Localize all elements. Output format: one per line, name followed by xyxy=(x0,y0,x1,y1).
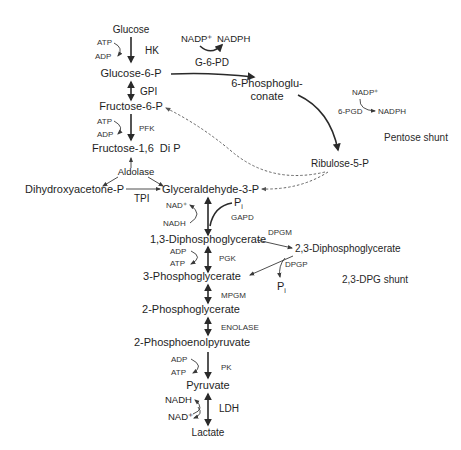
cofactor-pfk-adp: ADP xyxy=(97,130,113,139)
cofactor-arrow-ldh-down xyxy=(194,407,200,418)
cofactor-pk-atp: ATP xyxy=(171,368,186,377)
metabolite-pi-gapd: Pi xyxy=(234,196,243,210)
arrow-6pg-to-ribulose xyxy=(298,95,338,150)
cofactor-arrow-gapd xyxy=(190,205,197,223)
enzyme-pfk: PFK xyxy=(139,124,155,133)
enzyme-ldh: LDH xyxy=(219,403,239,414)
enzyme-tpi: TPI xyxy=(134,193,150,204)
dashed-arrow-ribulose-to-g3p xyxy=(262,172,328,189)
metabolite-glyceraldehyde-3-p: Glyceraldehyde-3-P xyxy=(162,183,259,195)
metabolite-glucose: Glucose xyxy=(113,24,150,35)
enzyme-hk: HK xyxy=(145,45,159,56)
metabolite-1-3-diphosphoglycerate: 1,3-Diphosphoglycerate xyxy=(150,233,266,245)
cofactor-arrow-ldh-up xyxy=(193,400,200,414)
cofactor-arrow-pgk xyxy=(191,251,198,264)
metabolite-pi-dpgp: Pi xyxy=(277,280,286,294)
enzyme-mpgm: MPGM xyxy=(221,291,246,300)
metabolite-3-phosphoglycerate: 3-Phosphoglycerate xyxy=(143,270,241,282)
metabolite-6-phosphogluconate-line2: conate xyxy=(250,90,283,102)
enzyme-gapd: GAPD xyxy=(231,213,254,222)
cofactor-gapd-nad: NAD⁺ xyxy=(166,201,187,210)
cofactor-pgk-adp: ADP xyxy=(170,247,186,256)
metabolite-fructose-1-6-diphosphate: Fructose-1,6 Di P xyxy=(92,142,181,154)
enzyme-gpi: GPI xyxy=(140,86,157,97)
metabolite-2-3-diphosphoglycerate: 2,3-Diphosphoglycerate xyxy=(295,243,401,254)
cofactor-ldh-nadh: NADH xyxy=(165,394,192,405)
cofactor-6pgd-label-enzyme: 6-PGD xyxy=(338,107,363,116)
cofactor-6pgd-nadph: NADPH xyxy=(378,107,406,116)
cofactor-pgk-atp: ATP xyxy=(170,259,185,268)
enzyme-g6pd: G-6-PD xyxy=(195,57,229,68)
metabolite-6-phosphogluconate-line1: 6-Phosphoglu- xyxy=(231,77,303,89)
metabolite-lactate: Lactate xyxy=(192,427,225,438)
cofactor-arrow-hk xyxy=(114,43,120,56)
cofactor-arrow-pfk xyxy=(114,121,121,134)
enzyme-aldolase: Aldolase xyxy=(118,166,154,177)
label-2-3-dpg-shunt: 2,3-DPG shunt xyxy=(342,274,408,285)
cofactor-gapd-nadh: NADH xyxy=(163,219,186,228)
cofactor-pk-adp: ADP xyxy=(171,355,187,364)
enzyme-pgk: PGK xyxy=(219,254,237,263)
dashed-arrow-ribulose-to-f6p xyxy=(166,108,325,176)
cofactor-arrow-pk xyxy=(191,359,199,373)
cofactor-g6pd-nadp: NADP⁺ xyxy=(181,33,212,44)
cofactor-g6pd-nadph: NADPH xyxy=(217,33,250,44)
metabolite-2-phosphoenolpyruvate: 2-Phosphoenolpyruvate xyxy=(134,336,250,348)
metabolite-fructose-6-p: Fructose-6-P xyxy=(99,100,163,112)
cofactor-arrow-g6pd xyxy=(200,45,222,51)
metabolite-ribulose-5-p: Ribulose-5-P xyxy=(311,158,369,169)
metabolite-2-phosphoglycerate: 2-Phosphoglycerate xyxy=(142,303,240,315)
cofactor-hk-atp: ATP xyxy=(97,38,112,47)
label-pentose-shunt: Pentose shunt xyxy=(384,132,448,143)
cofactor-hk-adp: ADP xyxy=(95,52,111,61)
cofactor-6pgd-nadp: NADP⁺ xyxy=(352,88,378,97)
cofactor-ldh-nad: NAD⁺ xyxy=(168,411,193,422)
cofactor-pfk-atp: ATP xyxy=(97,117,112,126)
glycolysis-pathway-diagram: Glucose HK ATP ADP Glucose-6-P GPI Fruct… xyxy=(0,0,461,450)
arrow-aldolase-to-g3p xyxy=(148,177,163,186)
enzyme-dpgp: DPGP xyxy=(285,260,308,269)
metabolite-pyruvate: Pyruvate xyxy=(186,379,229,391)
enzyme-dpgm: DPGM xyxy=(268,228,292,237)
enzyme-pk: PK xyxy=(221,363,232,372)
metabolite-dihydroxyacetone-p: Dihydroxyacetone-P xyxy=(25,183,124,195)
pi-input-curve-gapd xyxy=(210,203,232,226)
metabolite-glucose-6-p: Glucose-6-P xyxy=(100,67,161,79)
enzyme-enolase: ENOLASE xyxy=(221,323,259,332)
